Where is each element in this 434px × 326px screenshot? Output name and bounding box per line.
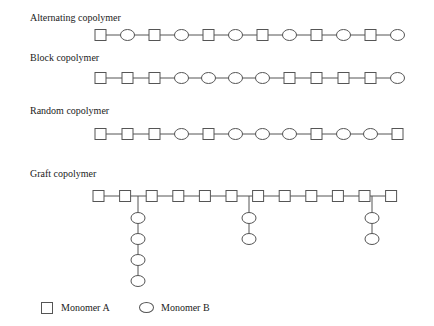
monomer-b-oval xyxy=(131,276,145,287)
legend-square-icon xyxy=(41,302,53,314)
monomer-a-square xyxy=(253,191,264,202)
monomer-b-oval xyxy=(256,129,270,140)
monomer-a-square xyxy=(149,129,160,140)
monomer-b-oval xyxy=(131,213,145,224)
monomer-a-square xyxy=(95,30,106,41)
monomer-a-square xyxy=(93,191,104,202)
monomer-a-square xyxy=(311,73,322,84)
monomer-b-oval xyxy=(121,30,135,41)
monomer-b-oval xyxy=(337,30,351,41)
monomer-b-oval xyxy=(175,129,189,140)
monomer-a-square xyxy=(122,129,133,140)
monomer-a-square xyxy=(149,73,160,84)
legend-monomer-b: Monomer B xyxy=(161,302,210,313)
monomer-b-oval xyxy=(283,129,297,140)
monomer-a-square xyxy=(311,129,322,140)
monomer-b-oval xyxy=(365,213,379,224)
monomer-b-oval xyxy=(131,255,145,266)
monomer-a-square xyxy=(199,191,210,202)
monomer-b-oval xyxy=(364,129,378,140)
monomer-a-square xyxy=(332,191,343,202)
monomer-a-square xyxy=(122,73,133,84)
monomer-a-square xyxy=(386,191,397,202)
monomer-b-oval xyxy=(283,30,297,41)
monomer-a-square xyxy=(306,191,317,202)
monomer-a-square xyxy=(95,73,106,84)
monomer-a-square xyxy=(203,30,214,41)
monomer-b-oval xyxy=(175,30,189,41)
monomer-b-oval xyxy=(242,213,256,224)
monomer-b-oval xyxy=(391,30,405,41)
monomer-b-oval xyxy=(229,30,243,41)
legend-oval-icon xyxy=(139,302,154,313)
monomer-b-oval xyxy=(242,234,256,245)
monomer-a-square xyxy=(365,30,376,41)
monomer-b-oval xyxy=(202,73,216,84)
monomer-a-square xyxy=(338,73,349,84)
monomer-a-square xyxy=(226,191,237,202)
monomer-a-square xyxy=(95,129,106,140)
monomer-a-square xyxy=(311,30,322,41)
copolymer-chains xyxy=(0,0,434,326)
monomer-b-oval xyxy=(256,73,270,84)
monomer-b-oval xyxy=(229,73,243,84)
monomer-a-square xyxy=(392,129,403,140)
monomer-b-oval xyxy=(175,73,189,84)
monomer-a-square xyxy=(359,191,370,202)
monomer-a-square xyxy=(284,73,295,84)
monomer-b-oval xyxy=(131,234,145,245)
monomer-b-oval xyxy=(391,73,405,84)
monomer-a-square xyxy=(173,191,184,202)
monomer-b-oval xyxy=(337,129,351,140)
monomer-a-square xyxy=(257,30,268,41)
monomer-a-square xyxy=(120,191,131,202)
monomer-a-square xyxy=(146,191,157,202)
monomer-b-oval xyxy=(365,234,379,245)
legend-monomer-a: Monomer A xyxy=(61,302,110,313)
monomer-a-square xyxy=(279,191,290,202)
monomer-a-square xyxy=(149,30,160,41)
monomer-a-square xyxy=(203,129,214,140)
monomer-b-oval xyxy=(229,129,243,140)
monomer-a-square xyxy=(365,73,376,84)
